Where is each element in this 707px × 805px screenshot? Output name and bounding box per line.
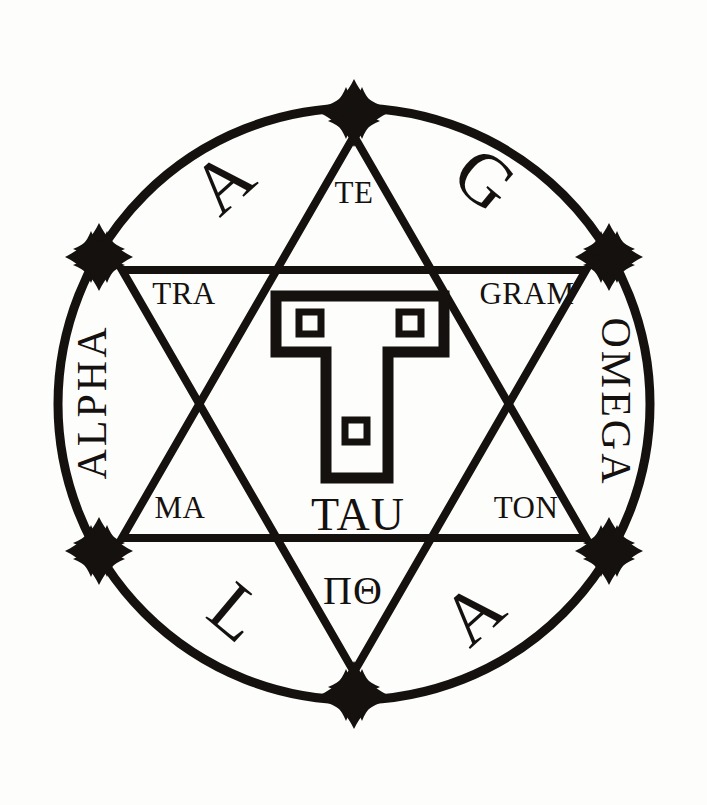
seal-canvas: TE TRA GRAM MA TON TAU ΠΘ A G L A ALPHA … bbox=[0, 0, 707, 805]
label-tra: TRA bbox=[152, 276, 216, 311]
label-te: TE bbox=[335, 175, 374, 210]
label-ma: MA bbox=[155, 490, 206, 525]
hexagram-seal-figure: TE TRA GRAM MA TON TAU ΠΘ A G L A ALPHA … bbox=[0, 0, 707, 805]
label-omega: OMEGA bbox=[593, 318, 639, 487]
label-greek-pi-theta: ΠΘ bbox=[323, 568, 383, 613]
label-alpha: ALPHA bbox=[69, 324, 115, 479]
label-gram: GRAM bbox=[479, 276, 574, 311]
label-ton: TON bbox=[494, 490, 559, 525]
label-tau-word: TAU bbox=[311, 489, 405, 540]
